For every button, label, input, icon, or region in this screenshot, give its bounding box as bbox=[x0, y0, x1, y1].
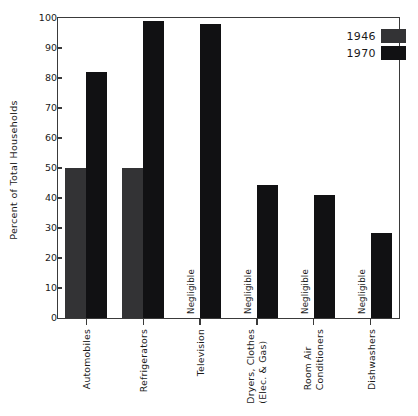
x-tick-mark bbox=[370, 319, 371, 325]
legend-swatch-1946 bbox=[381, 29, 406, 43]
y-tick-label: 80 bbox=[23, 73, 57, 83]
y-tick-label: 60 bbox=[23, 133, 57, 143]
bar-1970-automobiles bbox=[86, 72, 107, 318]
bar-1970-roomairconditioners bbox=[314, 195, 335, 318]
x-tick-mark bbox=[313, 319, 314, 325]
x-category-label: Dishwashers bbox=[366, 329, 378, 390]
legend-label-1946: 1946 bbox=[346, 30, 376, 43]
x-tick-mark bbox=[256, 319, 257, 325]
y-tick-label: 90 bbox=[23, 43, 57, 53]
y-tick-label: 0 bbox=[23, 313, 57, 323]
x-category-label-line: Dishwashers bbox=[366, 329, 377, 390]
y-tick-label: 100 bbox=[23, 13, 57, 23]
x-category-label-line: Automobiles bbox=[81, 329, 92, 389]
negligible-label: Negligible bbox=[243, 269, 253, 314]
y-tick-mark bbox=[57, 47, 62, 48]
y-tick-label: 50 bbox=[23, 163, 57, 173]
bar-chart: Percent of Total Households 010203040506… bbox=[0, 0, 418, 416]
y-tick-label: 20 bbox=[23, 253, 57, 263]
y-tick-mark bbox=[57, 257, 62, 258]
y-tick-mark bbox=[57, 77, 62, 78]
x-category-label: Television bbox=[195, 329, 207, 376]
y-tick-mark bbox=[57, 137, 62, 138]
bars-layer: NegligibleNegligibleNegligibleNegligible bbox=[58, 18, 399, 318]
y-axis-ticks: 0102030405060708090100 bbox=[0, 0, 57, 416]
x-category-label-line: Television bbox=[195, 329, 206, 376]
legend-item-1970: 1970 bbox=[346, 46, 406, 60]
y-tick-mark bbox=[57, 107, 62, 108]
x-category-label-line: Dryers, Clothes bbox=[245, 329, 256, 404]
x-category-label: Automobiles bbox=[81, 329, 93, 389]
x-category-label: Refrigerators bbox=[138, 329, 150, 392]
negligible-label: Negligible bbox=[300, 269, 310, 314]
bar-1970-dryersclotheselecgas bbox=[257, 185, 278, 319]
x-category-label-line: Refrigerators bbox=[138, 329, 149, 392]
x-tick-mark bbox=[86, 319, 87, 325]
x-tick-mark bbox=[199, 319, 200, 325]
y-tick-label: 30 bbox=[23, 223, 57, 233]
bar-1970-refrigerators bbox=[143, 21, 164, 318]
legend-swatch-1970 bbox=[381, 46, 406, 60]
y-tick-mark bbox=[57, 197, 62, 198]
bar-1970-dishwashers bbox=[371, 233, 392, 319]
x-category-label-line: (Elec. & Gas) bbox=[256, 329, 268, 404]
x-category-label: Room AirConditioners bbox=[302, 329, 325, 390]
legend: 1946 1970 bbox=[346, 29, 406, 60]
bar-1946-refrigerators bbox=[122, 168, 143, 318]
y-tick-label: 40 bbox=[23, 193, 57, 203]
y-tick-mark bbox=[57, 287, 62, 288]
y-tick-mark bbox=[57, 167, 62, 168]
x-category-label-line: Conditioners bbox=[313, 329, 325, 390]
negligible-label: Negligible bbox=[186, 269, 196, 314]
negligible-label: Negligible bbox=[357, 269, 367, 314]
legend-item-1946: 1946 bbox=[346, 29, 406, 43]
y-tick-label: 70 bbox=[23, 103, 57, 113]
legend-label-1970: 1970 bbox=[346, 47, 376, 60]
x-category-label-line: Room Air bbox=[302, 346, 313, 390]
bar-1970-television bbox=[200, 24, 221, 318]
bar-1946-automobiles bbox=[65, 168, 86, 318]
y-tick-mark bbox=[57, 227, 62, 228]
x-tick-mark bbox=[143, 319, 144, 325]
x-category-label: Dryers, Clothes(Elec. & Gas) bbox=[245, 329, 268, 404]
y-tick-label: 10 bbox=[23, 283, 57, 293]
